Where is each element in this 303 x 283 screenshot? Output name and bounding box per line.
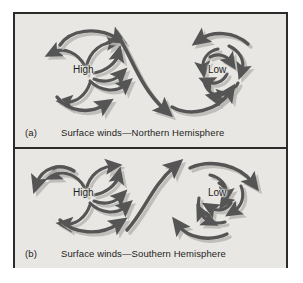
- panel-northern-hemisphere: High Low (a) Surface winds—Northern Hemi…: [15, 14, 286, 147]
- connector-arrow-northern: [119, 37, 164, 109]
- pressure-label-high-northern: High: [73, 64, 94, 75]
- pressure-label-high-southern: High: [73, 187, 94, 198]
- caption-text-a: Surface winds—Northern Hemisphere: [61, 127, 224, 138]
- connector-arrow-shadow-southern: [130, 170, 177, 233]
- wind-arrow: [208, 74, 227, 83]
- connector-arrow-shadow-northern: [122, 40, 167, 112]
- wind-arrow: [179, 226, 227, 238]
- pressure-label-low-northern: Low: [208, 64, 226, 75]
- wind-arrow: [54, 173, 84, 187]
- panel-tag-a: (a): [25, 127, 37, 138]
- wind-arrow: [94, 177, 118, 195]
- caption-northern-hemisphere: (a) Surface winds—Northern Hemisphere: [15, 127, 286, 141]
- caption-text-b: Surface winds—Southern Hemisphere: [61, 248, 226, 259]
- wind-arrow: [198, 198, 209, 221]
- wind-arrow: [94, 55, 118, 73]
- connector-arrow-southern: [127, 167, 174, 230]
- wind-arrow: [234, 186, 243, 211]
- low-outer-limbs-shadow-northern: [175, 37, 251, 115]
- panel-southern-hemisphere: High Low (b) Surface winds—Southern Hemi…: [15, 149, 286, 268]
- wind-arrow: [54, 50, 84, 65]
- figure-frame: High Low (a) Surface winds—Northern Hemi…: [13, 12, 288, 268]
- panel-tag-b: (b): [25, 248, 37, 259]
- wind-arrow: [60, 220, 118, 232]
- caption-southern-hemisphere: (b) Surface winds—Southern Hemisphere: [15, 248, 286, 262]
- pressure-label-low-southern: Low: [208, 187, 226, 198]
